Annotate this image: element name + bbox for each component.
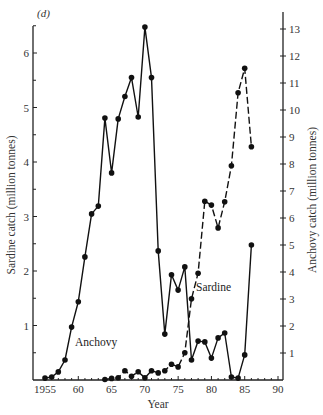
anchovy-data-point [135,114,141,120]
right-y-tick-label: 8 [289,158,295,170]
sardine-data-point [189,296,195,302]
right-y-tick-label: 12 [289,50,300,62]
anchovy-data-point [49,374,55,380]
sardine-data-point [202,198,208,204]
anchovy-series-label: Anchovy [75,336,117,349]
anchovy-data-point [129,75,135,81]
right-y-tick-label: 5 [289,239,295,251]
sardine-data-point [182,350,188,356]
right-y-tick-label: 7 [289,185,295,197]
left-y-tick-label: 3 [24,211,30,223]
anchovy-data-point [142,24,148,30]
line-chart: 195560657075808590 123456 12345678910111… [0,0,323,415]
anchovy-data-point [89,211,95,217]
sardine-data-point [142,375,148,381]
anchovy-data-point [155,248,161,254]
sardine-data-point [209,202,215,208]
sardine-data-point [135,369,141,375]
anchovy-data-point [115,116,121,122]
left-y-tick-label: 2 [24,265,30,277]
anchovy-line [45,27,251,378]
sardine-data-point [235,90,241,96]
right-y-tick-label: 9 [289,131,295,143]
right-y-tick-label: 4 [289,266,295,278]
anchovy-data-point [69,324,75,330]
right-y-tick-label: 2 [289,320,295,332]
right-y-tick-label: 1 [289,347,295,359]
anchovy-data-point [56,369,62,375]
anchovy-data-point [222,330,228,336]
anchovy-data-point [215,335,221,341]
sardine-data-point [195,270,201,276]
x-tick-label: 60 [73,383,85,395]
anchovy-data-point [42,375,48,381]
anchovy-data-point [242,352,248,358]
sardine-data-point [122,368,128,374]
left-y-tick-label: 6 [24,47,30,59]
anchovy-data-point [195,338,201,344]
anchovy-data-point [76,299,82,305]
right-y-tick-label: 3 [289,293,295,305]
chart-figure: 195560657075808590 123456 12345678910111… [0,0,323,415]
x-tick-label: 65 [106,383,118,395]
anchovy-data-point [109,170,115,176]
sardine-data-point [155,370,161,376]
sardine-data-point [222,199,228,205]
x-tick-label: 70 [139,383,151,395]
anchovy-data-point [149,75,155,81]
sardine-data-point [109,376,115,382]
left-y-axis-title: Sardine catch (million tonnes) [5,135,18,274]
sardine-data-point [149,368,155,374]
sardine-data-point [162,368,168,374]
sardine-line [105,68,252,379]
sardine-data-point [215,225,221,231]
left-y-tick-label: 5 [24,102,30,114]
sardine-data-point [242,66,248,72]
anchovy-data-point [162,331,168,337]
anchovy-data-point [229,374,235,380]
x-axis-ticks: 195560657075808590 [34,376,284,395]
data-series [42,24,254,382]
anchovy-data-point [122,94,128,100]
anchovy-data-point [209,355,215,361]
anchovy-data-point [102,115,108,121]
x-tick-label: 85 [239,383,251,395]
left-y-axis-ticks: 123456 [24,26,38,353]
anchovy-data-point [189,357,195,363]
left-y-tick-label: 1 [24,320,30,332]
anchovy-data-point [202,339,208,345]
sardine-data-point [175,364,181,370]
anchovy-data-point [169,272,175,278]
anchovy-data-point [96,203,102,209]
sardine-data-point [249,144,255,150]
x-tick-label: 90 [273,383,285,395]
x-tick-label: 1955 [34,383,57,395]
x-axis-title: Year [147,398,168,410]
right-y-tick-label: 11 [289,77,300,89]
anchovy-data-point [175,287,181,293]
anchovy-data-point [249,242,255,248]
x-tick-label: 75 [173,383,185,395]
sardine-data-point [102,377,108,383]
anchovy-data-point [82,254,88,260]
sardine-series-label: Sardine [196,281,231,293]
sardine-data-point [115,375,121,381]
left-y-tick-label: 4 [24,156,30,168]
sardine-series [102,66,254,383]
sardine-data-point [229,163,235,169]
anchovy-data-point [62,357,68,363]
sardine-data-point [169,361,175,367]
right-y-tick-label: 6 [289,212,295,224]
x-tick-label: 80 [206,383,218,395]
panel-label: (d) [37,7,50,20]
right-y-tick-label: 10 [289,104,301,116]
anchovy-data-point [182,264,188,270]
right-y-tick-label: 13 [289,23,301,35]
sardine-data-point [129,373,135,379]
right-y-axis-title: Anchovy catch (million tonnes) [306,127,319,273]
anchovy-data-point [235,375,241,381]
